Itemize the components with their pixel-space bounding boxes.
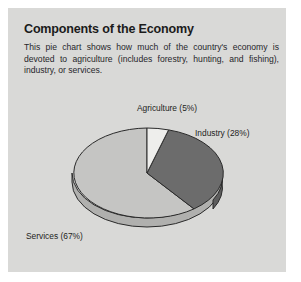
pie-chart: Agriculture (5%) Industry (28%) Services… xyxy=(8,8,286,272)
pie-top-face xyxy=(74,128,223,218)
figure-card: Components of the Economy This pie chart… xyxy=(8,8,286,272)
pie-label-agriculture: Agriculture (5%) xyxy=(137,103,197,113)
pie-label-industry: Industry (28%) xyxy=(195,128,249,138)
pie-label-services: Services (67%) xyxy=(26,231,83,241)
